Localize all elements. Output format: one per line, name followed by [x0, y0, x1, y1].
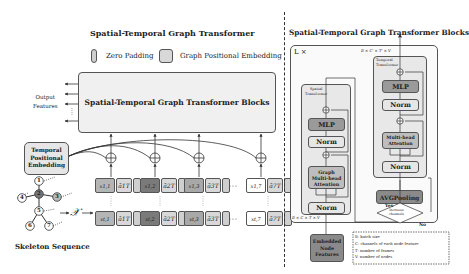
embedded-node-features: Embedded Node Features — [310, 234, 344, 262]
yes-label: Yes — [385, 203, 393, 208]
variable-legend: B: batch size C: channels of each node f… — [355, 234, 419, 261]
decision-label: Increase channels — [389, 208, 404, 216]
no-label: No — [419, 222, 426, 227]
